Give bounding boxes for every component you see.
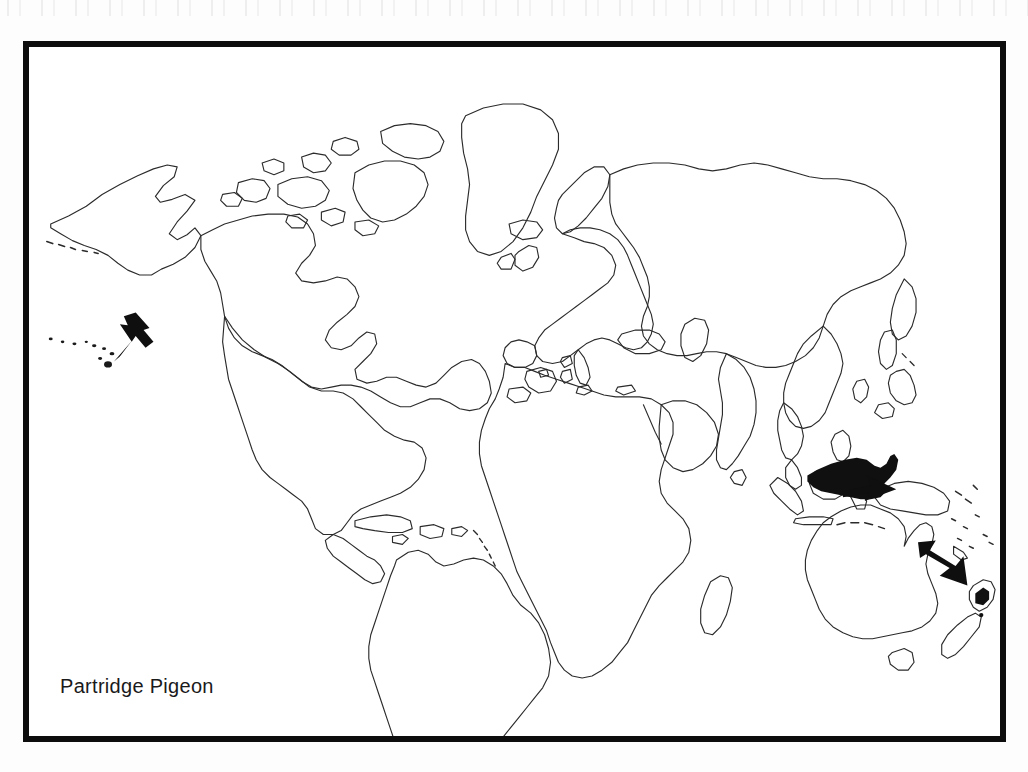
- philippines-outline: [831, 430, 851, 461]
- madagascar-island: [701, 576, 733, 635]
- hawaiian-islands-dots: [49, 338, 115, 368]
- ireland-island: [497, 253, 515, 269]
- japan-south-outline: [875, 403, 895, 419]
- russia-north-outline: [610, 163, 906, 367]
- ellesmere-island: [381, 124, 444, 159]
- crete-island: [616, 385, 636, 395]
- world-map-canvas: [29, 47, 1000, 736]
- fiji-islands: [983, 535, 993, 545]
- central-america: [325, 535, 384, 584]
- tasmania-island: [888, 649, 914, 671]
- kuril-islands: [902, 354, 914, 366]
- scan-artifact-strip: [0, 0, 1028, 16]
- scandinavia-outline: [555, 167, 610, 234]
- british-isles: [515, 246, 539, 272]
- new-zealand-range-dot: [979, 613, 983, 617]
- iberia-outline: [503, 340, 537, 368]
- china-east-outline: [784, 326, 843, 428]
- arrow-hawaii: [114, 312, 154, 361]
- lesser-sunda-islands: [837, 523, 884, 529]
- java-island: [794, 517, 834, 525]
- kamchatka-outline: [890, 279, 916, 340]
- pacific-islands-small: [952, 515, 980, 548]
- map-frame: Partridge Pigeon: [23, 41, 1006, 742]
- baffin-island: [353, 161, 428, 222]
- arrow-new-zealand: [918, 540, 967, 585]
- japan-outline: [888, 369, 916, 404]
- arctic-island-f: [355, 220, 379, 236]
- sri-lanka-island: [730, 470, 746, 486]
- korea-outline: [853, 379, 869, 403]
- arctic-island-e: [321, 208, 345, 226]
- jamaica-island: [393, 535, 409, 545]
- europe-mainland: [535, 228, 654, 364]
- arctic-island-b: [331, 137, 359, 155]
- scanned-page: Partridge Pigeon: [0, 0, 1028, 772]
- india-outline: [717, 354, 757, 470]
- hispaniola-island: [420, 525, 444, 539]
- canada-outline: [201, 214, 491, 411]
- victoria-island: [278, 177, 329, 208]
- range-fill-group: [807, 454, 989, 617]
- cuba-island: [355, 515, 412, 533]
- arctic-island-c: [262, 159, 284, 175]
- alaska-outline: [51, 165, 201, 275]
- new-zealand-south-island: [942, 613, 982, 658]
- italy-outline: [574, 350, 590, 385]
- sumatra-island: [770, 478, 804, 515]
- red-sea-line: [643, 405, 661, 444]
- new-caledonia: [954, 546, 968, 560]
- nova-scotia: [507, 387, 531, 403]
- caspian-sea-outline: [681, 318, 709, 361]
- new-zealand-range-fill: [975, 588, 989, 606]
- species-caption: Partridge Pigeon: [60, 675, 214, 698]
- puerto-rico-island: [452, 527, 468, 537]
- banks-island: [236, 179, 270, 203]
- indochina-outline: [778, 403, 804, 460]
- malay-peninsula: [786, 460, 802, 489]
- africa-outline: [479, 363, 690, 678]
- usa-mexico-outline: [223, 316, 426, 534]
- arctic-island-a: [302, 153, 332, 173]
- solomon-islands: [956, 485, 978, 503]
- greenland-outline: [462, 104, 559, 255]
- south-america-outline: [369, 550, 551, 736]
- land-outlines: [47, 104, 995, 736]
